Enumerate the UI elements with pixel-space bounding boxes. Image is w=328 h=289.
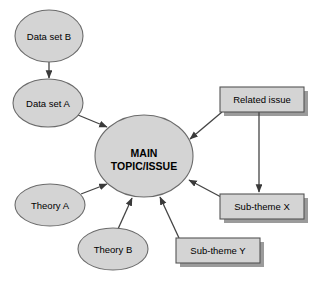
arrow-related-issue-to-main [190,112,222,139]
node-theory-b[interactable] [78,228,148,270]
node-layer [13,10,304,270]
arrow-theory-b-to-main [118,198,132,229]
diagram-svg-canvas: Data set BData set AMAINTOPIC/ISSUETheor… [0,0,328,289]
arrow-sub-theme-x-to-main [189,180,221,197]
arrow-data-a-to-main [78,115,107,127]
arrow-sub-theme-y-to-main [160,197,179,238]
node-theory-a[interactable] [15,184,85,226]
node-sub-theme-x[interactable] [220,194,304,219]
concept-map-diagram: Data set BData set AMAINTOPIC/ISSUETheor… [0,0,328,289]
node-sub-theme-y[interactable] [176,238,260,263]
node-data-set-b[interactable] [15,10,83,62]
node-data-set-a[interactable] [13,79,83,127]
node-main-topic[interactable] [95,115,193,197]
node-related-issue[interactable] [220,87,304,112]
arrow-theory-a-to-main [81,184,107,194]
